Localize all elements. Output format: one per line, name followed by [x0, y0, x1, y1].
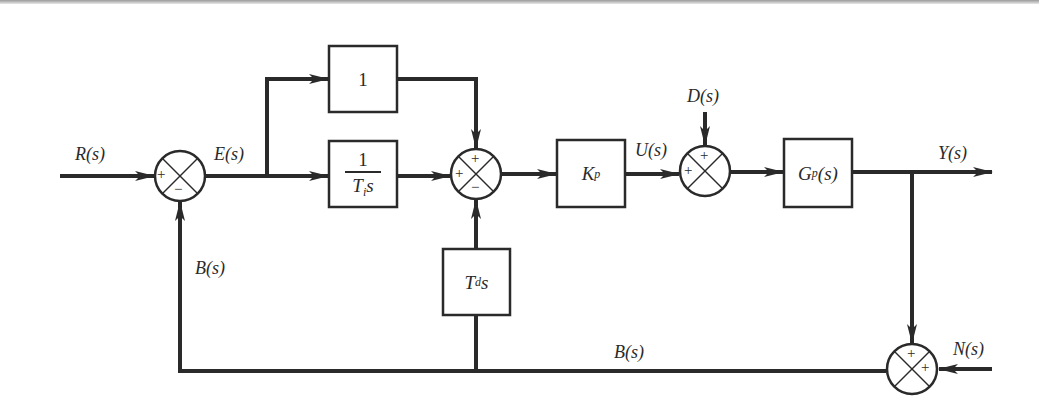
- sign: +: [700, 148, 708, 163]
- integral-block-label: 1 Tis: [329, 141, 397, 207]
- noise-signal-label: N(s): [953, 340, 984, 358]
- feedback-bottom-label: B(s): [614, 343, 644, 361]
- plant-block-label: Gp(s): [784, 139, 852, 207]
- proportional-block-label: 1: [329, 46, 397, 112]
- sign: +: [921, 360, 929, 375]
- disturbance-signal-label: D(s): [687, 87, 719, 105]
- sign: +: [455, 166, 463, 181]
- proportional-to-sum-arrow: [398, 79, 476, 148]
- derivative-block-label: Tds: [443, 249, 510, 315]
- diagram-lines: [0, 0, 1039, 418]
- control-signal-label: U(s): [635, 141, 667, 159]
- error-to-proportional-arrow: [267, 79, 328, 176]
- input-signal-label: R(s): [75, 145, 105, 163]
- sign: +: [157, 167, 165, 182]
- sign: +: [471, 151, 479, 166]
- gain-block-label: Kp: [557, 140, 625, 207]
- sign: +: [684, 163, 692, 178]
- sign: +: [907, 346, 915, 361]
- block-diagram: + − + + − + + + + R(s) E(s) U(s) D(s) Y(…: [0, 0, 1039, 418]
- output-signal-label: Y(s): [938, 144, 967, 162]
- error-signal-label: E(s): [214, 145, 244, 163]
- feedback-left-label: B(s): [195, 259, 225, 277]
- sign: −: [174, 182, 182, 197]
- sign: −: [471, 180, 479, 195]
